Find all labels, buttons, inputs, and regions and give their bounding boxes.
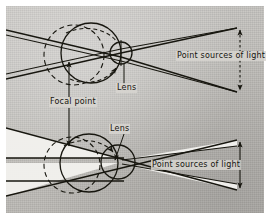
- label-point-sources-top: Point sources of light: [176, 51, 266, 61]
- lens-leader-bottom: [115, 134, 124, 160]
- bottom-panel-art: [6, 108, 240, 196]
- focal-arc-lower-top: [70, 68, 116, 82]
- label-focal-point: Focal point: [49, 97, 97, 107]
- eyeball-outline-top: [61, 23, 121, 83]
- diagram-artwork: [0, 0, 270, 219]
- optics-figure: Lens Point sources of light Focal point …: [0, 0, 270, 219]
- ray-wedge-upper-right-bottom: [122, 140, 237, 160]
- label-lens-top: Lens: [116, 83, 137, 93]
- label-point-sources-bottom: Point sources of light: [151, 160, 241, 170]
- label-lens-bottom: Lens: [109, 124, 130, 134]
